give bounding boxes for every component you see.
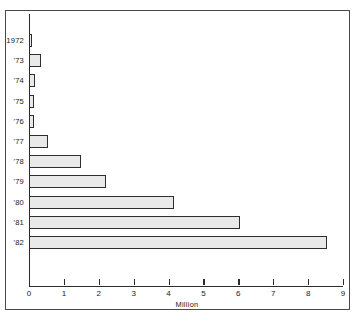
bar	[29, 34, 32, 47]
bar	[29, 216, 240, 229]
x-axis-tick	[134, 279, 135, 285]
y-axis-tick-label: 1972	[0, 34, 24, 47]
bar	[29, 95, 34, 108]
x-axis-tick-label: 0	[27, 288, 31, 299]
x-axis-tick-label: 6	[236, 288, 240, 299]
bar	[29, 175, 106, 188]
bar	[29, 155, 81, 168]
bar-row	[29, 155, 81, 168]
bar-row	[29, 115, 34, 128]
x-axis-tick	[64, 279, 65, 285]
y-axis-tick-label: '81	[0, 216, 24, 229]
bar	[29, 236, 327, 249]
bar-series	[29, 34, 345, 279]
x-axis-tick	[343, 279, 344, 285]
x-axis-tick-label: 9	[341, 288, 345, 299]
x-axis-tick	[238, 279, 239, 285]
x-axis-tick	[273, 279, 274, 285]
bar-row	[29, 135, 48, 148]
bar	[29, 135, 48, 148]
x-axis-tick-label: 7	[271, 288, 275, 299]
x-axis-tick	[169, 279, 170, 285]
bar-row	[29, 196, 174, 209]
x-axis-tick	[29, 279, 30, 285]
bar-row	[29, 175, 106, 188]
y-axis-tick-label: '80	[0, 196, 24, 209]
y-axis-tick-label: '82	[0, 236, 24, 249]
x-axis-tick-labels: 0123456789	[29, 288, 345, 300]
bar	[29, 54, 41, 67]
x-axis-tick-label: 8	[306, 288, 310, 299]
bar-row	[29, 236, 327, 249]
y-axis-tick-label: '77	[0, 135, 24, 148]
bar-row	[29, 34, 32, 47]
y-axis-tick-label: '73	[0, 54, 24, 67]
x-axis-tick	[203, 279, 204, 285]
y-axis-tick-label: '79	[0, 175, 24, 188]
bar-row	[29, 74, 35, 87]
bar	[29, 196, 174, 209]
y-axis-tick-label: '74	[0, 74, 24, 87]
x-axis-tick-label: 4	[166, 288, 170, 299]
x-axis-tick-label: 5	[201, 288, 205, 299]
x-axis-tick-label: 2	[97, 288, 101, 299]
y-axis-tick-label: '76	[0, 115, 24, 128]
bar	[29, 74, 35, 87]
x-axis-title: Million	[29, 300, 345, 309]
bar	[29, 115, 34, 128]
x-axis-tick-label: 1	[62, 288, 66, 299]
y-axis-tick-label: '78	[0, 155, 24, 168]
y-axis-tick-labels: 1972'73'74'75'76'77'78'79'80'81'82	[0, 34, 27, 279]
bar-row	[29, 54, 41, 67]
x-axis-ticks	[29, 279, 345, 286]
bar-row	[29, 95, 34, 108]
x-axis-tick	[99, 279, 100, 285]
x-axis-tick-label: 3	[131, 288, 135, 299]
x-axis-tick	[308, 279, 309, 285]
chart-screenshot: 1972'73'74'75'76'77'78'79'80'81'82 01234…	[0, 0, 356, 316]
bar-row	[29, 216, 240, 229]
y-axis-tick-label: '75	[0, 95, 24, 108]
